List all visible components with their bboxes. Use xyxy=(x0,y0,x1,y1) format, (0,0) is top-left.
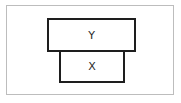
box-y-label: Y xyxy=(88,30,95,41)
box-y: Y xyxy=(47,18,136,52)
box-x-label: X xyxy=(88,61,96,72)
box-x: X xyxy=(59,50,125,83)
